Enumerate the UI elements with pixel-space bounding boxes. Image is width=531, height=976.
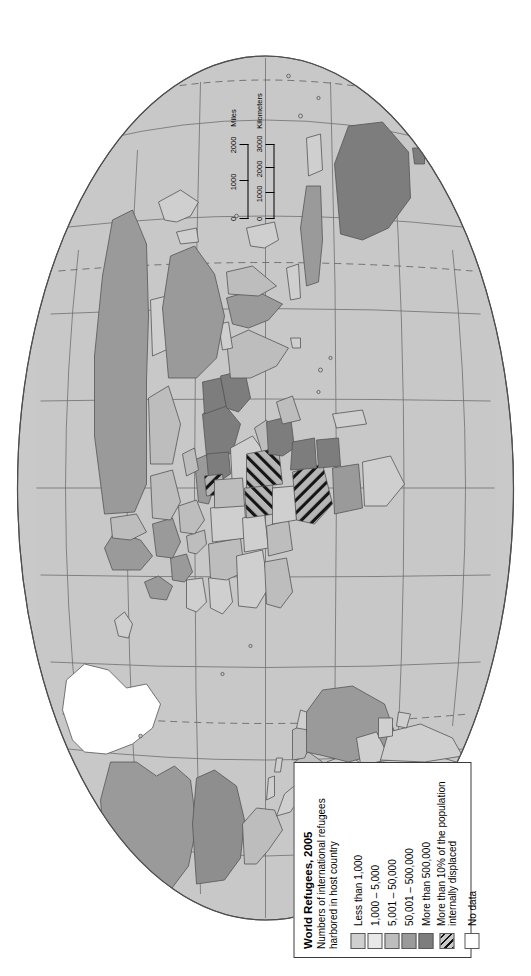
country-angola-zambia xyxy=(332,464,362,514)
legend-item-label: No data xyxy=(466,891,478,926)
scale-tick-label: 1000 xyxy=(254,186,263,203)
legend-swatch xyxy=(464,933,479,949)
scale-tick-label: 3000 xyxy=(254,136,263,153)
legend-item[interactable]: 50,001 – 500,000 xyxy=(400,771,417,949)
scale-tick xyxy=(265,167,274,168)
legend-swatch xyxy=(367,933,382,949)
legend-subtitle: Numbers of international refugees harbor… xyxy=(315,771,339,949)
map-legend: World Refugees, 2005 Numbers of internat… xyxy=(293,762,471,958)
country-cameroon-car xyxy=(272,486,296,524)
scale-tick-label: 0 xyxy=(228,217,237,221)
country-paraguay xyxy=(378,718,392,738)
legend-swatch-hatched xyxy=(439,933,454,949)
legend-item-label: 5,001 – 50,000 xyxy=(386,859,398,926)
legend-title: World Refugees, 2005 xyxy=(301,771,314,949)
legend-item-label: 50,001 – 500,000 xyxy=(403,848,415,926)
map-page: World Refugees, 2005 Numbers of internat… xyxy=(0,0,531,976)
scale-tick-label: 2000 xyxy=(254,161,263,178)
country-niger xyxy=(242,514,268,552)
legend-item[interactable]: Less than 1,000 xyxy=(349,771,366,949)
scale-unit-label-miles: Miles xyxy=(228,109,237,127)
legend-item-label: More than 500,000 xyxy=(420,842,432,926)
scale-line-miles xyxy=(239,144,248,219)
scale-bars: 0 1000 2000 Miles 0 1000 2000 3000 Kilom… xyxy=(228,144,276,219)
legend-items: Less than 1,000 1,000 – 5,000 5,001 – 50… xyxy=(349,771,480,949)
country-nigeria xyxy=(266,520,292,556)
legend-item[interactable]: No data xyxy=(463,771,480,949)
scale-tick xyxy=(265,192,274,193)
scale-tick-label: 1000 xyxy=(228,174,237,191)
legend-item[interactable]: More than 500,000 xyxy=(417,771,434,949)
legend-item-label: Less than 1,000 xyxy=(352,855,364,926)
scale-tick-label: 0 xyxy=(254,217,263,221)
legend-item-label: 1,000 – 5,000 xyxy=(369,865,381,926)
rotated-map-stage: World Refugees, 2005 Numbers of internat… xyxy=(0,0,531,976)
legend-swatch xyxy=(418,933,433,949)
legend-item-label: More than 10% of the population internal… xyxy=(435,776,458,926)
legend-swatch xyxy=(350,933,365,949)
scale-tick-label: 2000 xyxy=(228,137,237,154)
country-libya xyxy=(210,504,246,542)
legend-item[interactable]: 1,000 – 5,000 xyxy=(366,771,383,949)
country-egypt xyxy=(214,478,244,508)
scale-bar-miles: 0 1000 2000 Miles xyxy=(228,144,250,219)
legend-item[interactable]: 5,001 – 50,000 xyxy=(383,771,400,949)
scale-bar-kilometers: 0 1000 2000 3000 Kilometers xyxy=(254,144,276,219)
scale-tick xyxy=(239,180,248,181)
country-png xyxy=(306,134,322,176)
scale-km-ticks: 0 1000 2000 3000 Kilometers xyxy=(254,144,265,219)
legend-item[interactable]: More than 10% of the population internal… xyxy=(434,771,458,949)
country-tanzania xyxy=(316,438,340,468)
scale-line-kilometers xyxy=(265,144,274,219)
country-chad xyxy=(244,484,274,518)
scale-unit-label-km: Kilometers xyxy=(254,93,263,128)
legend-swatch xyxy=(401,933,416,949)
country-uganda-kenya xyxy=(290,438,316,470)
scale-miles-ticks: 0 1000 2000 Miles xyxy=(228,144,239,219)
legend-swatch xyxy=(384,933,399,949)
